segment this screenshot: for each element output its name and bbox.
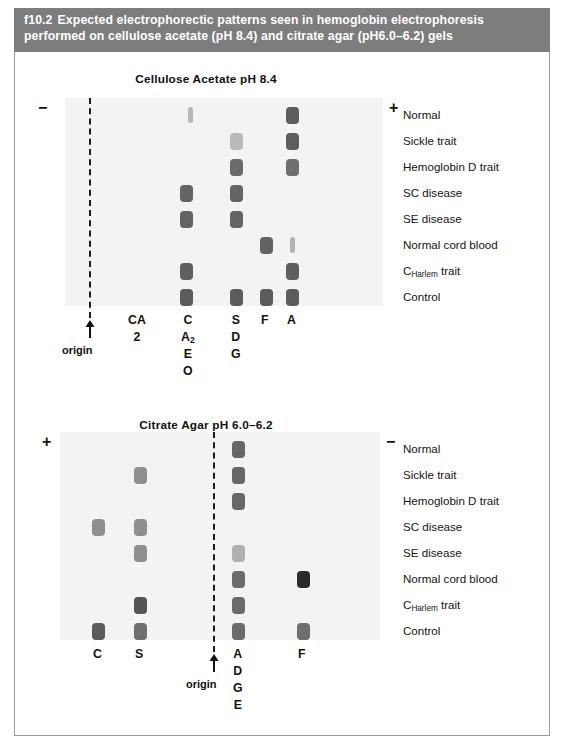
gel-citrate_agar (60, 432, 380, 640)
band-citrate_agar-S (134, 623, 147, 640)
lane-label-citrate_agar-A: ADGE (233, 646, 243, 714)
origin-arrow-cellulose_acetate (84, 320, 96, 338)
band-cellulose_acetate-S (230, 185, 243, 202)
band-cellulose_acetate-A (290, 237, 295, 253)
row-label-citrate_agar-2: Hemoglobin D trait (403, 495, 499, 507)
lane-label-cellulose_acetate-C: CA2EO (181, 312, 195, 380)
band-citrate_agar-S (134, 545, 147, 562)
row-label-citrate_agar-6: CHarlem trait (403, 599, 460, 611)
row-label-citrate_agar-4: SE disease (403, 547, 462, 559)
row-label-cellulose_acetate-6: CHarlem trait (403, 265, 460, 277)
row-label-cellulose_acetate-3: SC disease (403, 187, 462, 199)
band-cellulose_acetate-A (286, 107, 299, 124)
lane-label-citrate_agar-F: F (298, 646, 306, 663)
band-citrate_agar-A (232, 493, 245, 510)
band-citrate_agar-A (232, 571, 245, 588)
band-cellulose_acetate-A (286, 159, 299, 176)
row-label-citrate_agar-7: Control (403, 625, 440, 637)
band-cellulose_acetate-S (230, 211, 243, 228)
band-cellulose_acetate-S (230, 133, 243, 150)
lane-label-citrate_agar-C: C (93, 646, 102, 663)
figure-10-2: f10.2Expected electrophorectic patterns … (0, 0, 564, 750)
band-citrate_agar-A (232, 623, 245, 640)
band-citrate_agar-S (134, 467, 147, 484)
figure-caption-text: Expected electrophorectic patterns seen … (24, 13, 484, 43)
lane-label-citrate_agar-S: S (135, 646, 143, 663)
band-citrate_agar-F (297, 623, 310, 640)
band-cellulose_acetate-F (260, 237, 273, 254)
lane-label-cellulose_acetate-S: SDG (231, 312, 241, 363)
band-cellulose_acetate-C (180, 289, 193, 306)
band-citrate_agar-A (232, 597, 245, 614)
band-citrate_agar-F (297, 571, 310, 588)
row-label-cellulose_acetate-4: SE disease (403, 213, 462, 225)
row-label-cellulose_acetate-1: Sickle trait (403, 135, 456, 147)
row-label-cellulose_acetate-5: Normal cord blood (403, 239, 498, 251)
band-cellulose_acetate-A (286, 289, 299, 306)
lane-label-cellulose_acetate-CA2: CA2 (128, 312, 146, 346)
figure-caption: f10.2Expected electrophorectic patterns … (14, 8, 550, 52)
band-citrate_agar-A (232, 441, 245, 458)
gel-cellulose_acetate (65, 98, 383, 306)
band-cellulose_acetate-F (260, 289, 273, 306)
band-citrate_agar-S (134, 519, 147, 536)
band-cellulose_acetate-C (180, 211, 193, 228)
band-cellulose_acetate-S (230, 289, 243, 306)
polarity-right-cellulose_acetate: + (389, 100, 398, 116)
band-cellulose_acetate-CA2 (188, 107, 193, 123)
polarity-right-citrate_agar: − (386, 434, 395, 450)
band-cellulose_acetate-S (230, 159, 243, 176)
band-citrate_agar-A (232, 467, 245, 484)
row-label-citrate_agar-3: SC disease (403, 521, 462, 533)
origin-arrow-citrate_agar (208, 654, 220, 672)
origin-label-cellulose_acetate: origin (62, 344, 93, 356)
band-cellulose_acetate-C (180, 263, 193, 280)
origin-line-citrate_agar (213, 432, 215, 652)
polarity-left-citrate_agar: + (42, 434, 51, 450)
origin-label-citrate_agar: origin (186, 678, 217, 690)
row-label-citrate_agar-0: Normal (403, 443, 440, 455)
origin-line-cellulose_acetate (89, 98, 91, 318)
panel-title-cellulose_acetate: Cellulose Acetate pH 8.4 (135, 72, 276, 86)
row-label-citrate_agar-5: Normal cord blood (403, 573, 498, 585)
panel-title-citrate_agar: Citrate Agar pH 6.0–6.2 (139, 418, 272, 432)
row-label-cellulose_acetate-2: Hemoglobin D trait (403, 161, 499, 173)
row-label-cellulose_acetate-7: Control (403, 291, 440, 303)
polarity-left-cellulose_acetate: − (38, 100, 47, 116)
band-cellulose_acetate-A (286, 133, 299, 150)
lane-label-cellulose_acetate-A: A (287, 312, 296, 329)
row-label-cellulose_acetate-0: Normal (403, 109, 440, 121)
figure-number: f10.2 (24, 13, 53, 27)
band-citrate_agar-A (232, 545, 245, 562)
band-cellulose_acetate-A (286, 263, 299, 280)
band-cellulose_acetate-C (180, 185, 193, 202)
lane-label-cellulose_acetate-F: F (261, 312, 269, 329)
row-label-citrate_agar-1: Sickle trait (403, 469, 456, 481)
band-citrate_agar-S (134, 597, 147, 614)
band-citrate_agar-C (92, 519, 105, 536)
band-citrate_agar-C (92, 623, 105, 640)
